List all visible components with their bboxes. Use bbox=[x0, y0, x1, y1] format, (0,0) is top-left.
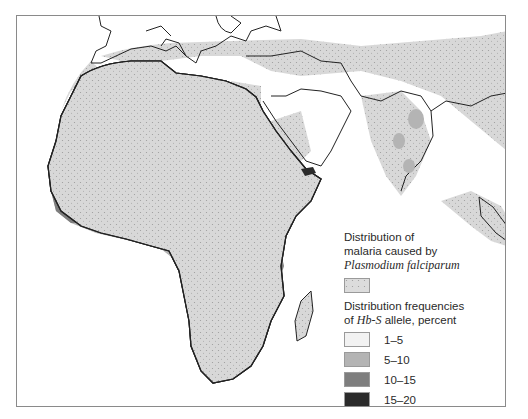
legend-swatch-5-10 bbox=[344, 352, 370, 367]
map-legend: Distribution of malaria caused by Plasmo… bbox=[344, 230, 504, 407]
legend-malaria-line2: malaria caused by bbox=[344, 244, 504, 258]
legend-frequency-title: Distribution frequencies of Hb-S allele,… bbox=[344, 299, 504, 327]
legend-label: 10–15 bbox=[384, 373, 416, 387]
madagascar bbox=[295, 291, 313, 341]
legend-malaria-swatch bbox=[344, 278, 370, 293]
legend-class-1-5: 1–5 bbox=[344, 330, 504, 349]
legend-freq-line2: of Hb-S allele, percent bbox=[344, 313, 504, 327]
legend-freq-line1: Distribution frequencies bbox=[344, 299, 504, 313]
legend-allele: Hb-S bbox=[357, 313, 382, 327]
legend-label: 5–10 bbox=[384, 353, 410, 367]
legend-label: 15–20 bbox=[384, 393, 416, 407]
legend-class-5-10: 5–10 bbox=[344, 350, 504, 369]
legend-class-15-20: 15–20 bbox=[344, 390, 504, 407]
legend-swatch-10-15 bbox=[344, 372, 370, 387]
legend-malaria-line1: Distribution of bbox=[344, 230, 504, 244]
legend-class-10-15: 10–15 bbox=[344, 370, 504, 389]
africa-continent bbox=[48, 61, 321, 383]
legend-freq-suffix: allele, percent bbox=[381, 314, 456, 326]
legend-label: 1–5 bbox=[384, 333, 403, 347]
map-frame: Distribution of malaria caused by Plasmo… bbox=[16, 15, 506, 407]
legend-swatch-1-5 bbox=[344, 332, 370, 347]
legend-swatch-15-20 bbox=[344, 392, 370, 407]
legend-freq-prefix: of bbox=[344, 314, 357, 326]
legend-malaria-species: Plasmodium falciparum bbox=[344, 258, 504, 272]
legend-malaria-title: Distribution of malaria caused by Plasmo… bbox=[344, 230, 504, 272]
